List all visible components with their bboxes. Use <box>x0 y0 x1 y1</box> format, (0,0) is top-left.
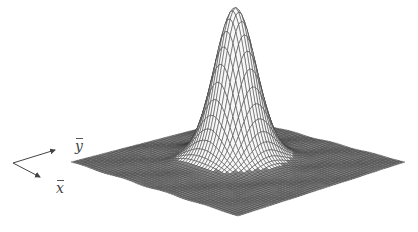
x-axis-label: x <box>56 181 64 195</box>
y-axis-label: y <box>75 139 83 153</box>
y-axis-arrow <box>13 150 55 163</box>
axes-indicator <box>0 0 418 232</box>
x-axis-arrow <box>13 163 40 177</box>
